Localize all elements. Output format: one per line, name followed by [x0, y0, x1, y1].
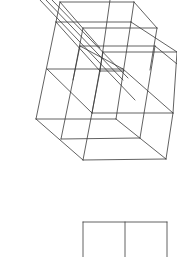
lattice-edge: [61, 46, 80, 139]
lattice-edge: [155, 46, 177, 64]
lattice-edge: [83, 159, 166, 160]
lattice-edge: [36, 119, 83, 160]
wireframe-cube-lattice: [0, 0, 177, 257]
lattice-edge: [56, 22, 100, 71]
lattice-edge: [116, 119, 166, 159]
lattice-edge: [134, 2, 157, 28]
lattice-edge: [61, 138, 140, 139]
lattice-edge: [140, 46, 155, 138]
lattice-edge: [166, 113, 173, 159]
lattice-edge: [36, 22, 56, 119]
lattice-edge: [46, 0, 123, 80]
lattice-edge: [150, 28, 157, 70]
lattice-edge: [60, 2, 100, 48]
lattice-edge: [116, 22, 131, 119]
lattice-edge: [131, 2, 134, 22]
lattice-edge: [52, 0, 128, 78]
lattice-edge: [83, 71, 100, 160]
lattice-edge: [47, 69, 92, 113]
